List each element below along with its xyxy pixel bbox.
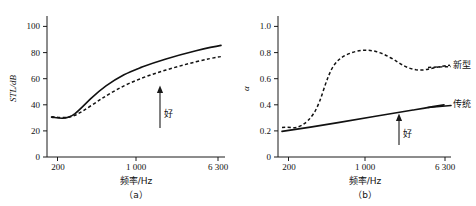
- y-tick-label-b-0: 0: [248, 153, 271, 162]
- y-axis-title-b: α: [242, 69, 251, 109]
- y-tick-label-b-04: 0.4: [248, 101, 271, 110]
- chart-panel-b: 0 0.2 0.4 0.6 0.8 1.0 α 200 1 000 6 300 …: [238, 0, 476, 206]
- figure-container: 0 20 40 60 80 100 STL/dB 200 1 000 6 300…: [0, 0, 476, 206]
- legend-line-new: [428, 67, 451, 68]
- y-tick-label-b-02: 0.2: [248, 127, 271, 136]
- panel-caption-a: （a）: [106, 191, 166, 200]
- y-tick-label-a-40: 40: [22, 101, 40, 110]
- curve-solid-a: [52, 45, 222, 118]
- curve-solid-b: [282, 105, 444, 131]
- x-tick-label-b-200: 200: [277, 163, 301, 172]
- series-label-traditional: 传统: [453, 100, 471, 109]
- y-axis-title-a: STL/dB: [9, 69, 18, 109]
- x-tick-label-b-6300: 6 300: [428, 163, 462, 172]
- legend-line-traditional: [428, 106, 451, 108]
- panel-caption-b: （b）: [335, 191, 395, 200]
- x-axis-title-b: 频率/Hz: [335, 177, 395, 186]
- y-tick-label-a-20: 20: [22, 127, 40, 136]
- y-tick-label-a-60: 60: [22, 75, 40, 84]
- y-tick-label-a-100: 100: [18, 22, 40, 31]
- annotation-label-a: 好: [164, 110, 173, 119]
- curve-dashed-b: [282, 50, 450, 128]
- up-arrow-icon-a: [157, 86, 163, 129]
- x-tick-label-a-200: 200: [46, 163, 70, 172]
- curve-dashed-a: [52, 57, 222, 118]
- up-arrow-icon-b: [396, 114, 402, 146]
- annotation-label-b: 好: [403, 130, 412, 139]
- chart-panel-a: 0 20 40 60 80 100 STL/dB 200 1 000 6 300…: [0, 0, 238, 206]
- x-tick-label-b-1000: 1 000: [348, 163, 382, 172]
- x-tick-label-a-6300: 6 300: [201, 163, 235, 172]
- x-tick-label-a-1000: 1 000: [119, 163, 153, 172]
- y-tick-label-a-0: 0: [22, 153, 40, 162]
- y-tick-label-b-08: 0.8: [248, 49, 271, 58]
- x-axis-title-a: 频率/Hz: [106, 177, 166, 186]
- series-label-new: 新型: [453, 61, 471, 70]
- y-tick-label-b-06: 0.6: [248, 75, 271, 84]
- y-tick-label-b-10: 1.0: [248, 22, 271, 31]
- y-tick-label-a-80: 80: [22, 49, 40, 58]
